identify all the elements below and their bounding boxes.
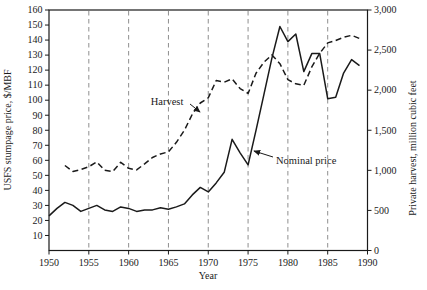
left-axis-tick-label: 10 (33, 230, 43, 241)
left-axis-tick-label: 90 (33, 110, 43, 121)
left-axis-tick-label: 80 (33, 125, 43, 136)
right-axis-tick-label: 3,000 (374, 4, 397, 15)
x-axis-tick-label: 1955 (79, 257, 99, 268)
x-axis-tick-label: 1950 (39, 257, 59, 268)
left-axis-tick-label: 160 (28, 4, 43, 15)
x-axis-title: Year (199, 270, 218, 281)
left-axis-tick-label: 60 (33, 155, 43, 166)
right-axis-tick-label: 1,000 (374, 165, 397, 176)
x-axis-tick-label: 1980 (278, 257, 298, 268)
left-axis-tick-label: 20 (33, 215, 43, 226)
left-axis-tick-label: 100 (28, 94, 43, 105)
nominal-price-arrow (254, 151, 273, 157)
harvest-label: Harvest (151, 96, 184, 107)
x-axis-tick-label: 1990 (358, 257, 378, 268)
harvest-line (65, 35, 360, 171)
nominal-price-label: Nominal price (276, 155, 337, 166)
chart-canvas: 1020304050607080901001101201301401501600… (0, 0, 427, 290)
right-axis-tick-label: 2,000 (374, 84, 397, 95)
x-axis-tick-label: 1970 (198, 257, 218, 268)
right-axis-tick-label: 2,500 (374, 44, 397, 55)
right-axis-tick-label: 0 (374, 245, 379, 256)
x-axis-tick-label: 1965 (158, 257, 178, 268)
right-axis-tick-label: 500 (374, 205, 389, 216)
right-axis-tick-label: 1,500 (374, 125, 397, 136)
stumpage-price-harvest-chart: 1020304050607080901001101201301401501600… (0, 0, 427, 290)
left-axis-tick-label: 110 (28, 79, 43, 90)
x-axis-tick-label: 1960 (119, 257, 139, 268)
plot-area: 1020304050607080901001101201301401501600… (28, 4, 397, 267)
nominal-price-line (49, 27, 360, 216)
x-axis-tick-label: 1975 (238, 257, 258, 268)
left-axis-tick-label: 140 (28, 34, 43, 45)
left-axis-tick-label: 30 (33, 200, 43, 211)
right-axis-title: Private harvest, million cubic feet (407, 80, 418, 215)
left-axis-title: USFS stumpage price, $/MBF (2, 69, 13, 191)
left-axis-tick-label: 40 (33, 185, 43, 196)
left-axis-tick-label: 120 (28, 64, 43, 75)
left-axis-tick-label: 130 (28, 49, 43, 60)
left-axis-tick-label: 70 (33, 140, 43, 151)
left-axis-tick-label: 50 (33, 170, 43, 181)
x-axis-tick-label: 1985 (318, 257, 338, 268)
left-axis-tick-label: 150 (28, 19, 43, 30)
